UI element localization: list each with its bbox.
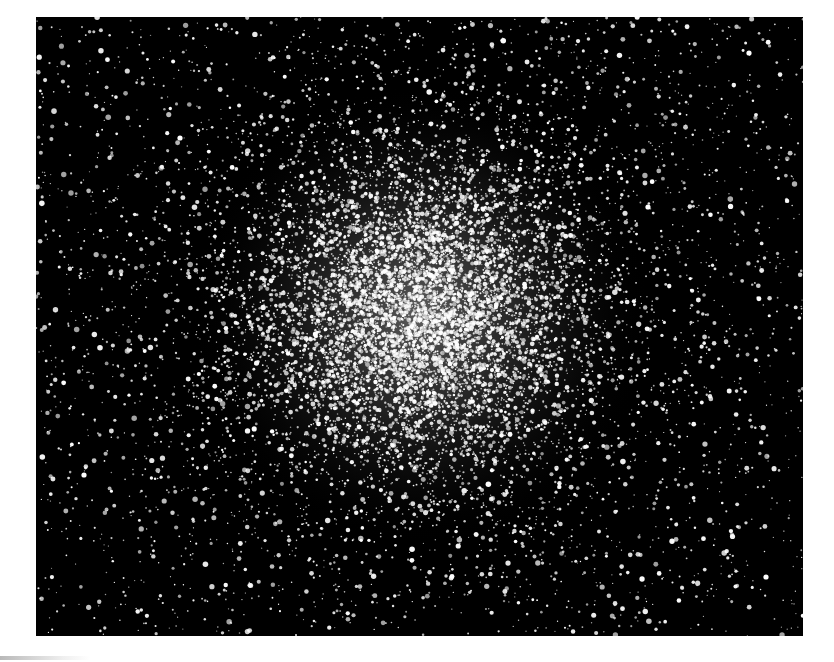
scan-edge-artifact — [0, 656, 90, 660]
globular-cluster-photo — [36, 17, 803, 636]
star-field-canvas — [36, 17, 803, 636]
